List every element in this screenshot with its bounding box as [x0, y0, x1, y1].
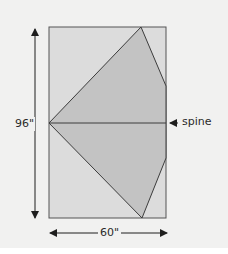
spine-label: spine	[182, 116, 212, 128]
height-label: 96"	[14, 117, 35, 131]
width-label: 60"	[98, 227, 121, 239]
